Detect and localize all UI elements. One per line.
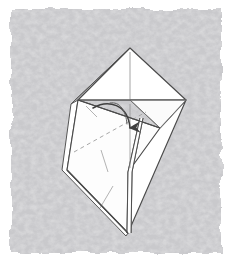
origami-figure: Origami fold step diagram paper model — … <box>0 0 242 279</box>
origami-diagram-svg <box>0 0 242 279</box>
